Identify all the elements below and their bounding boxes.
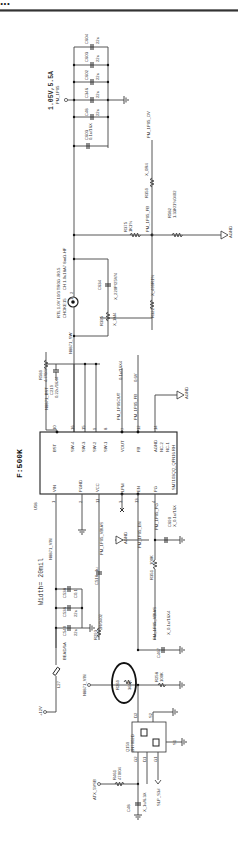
schematic-label: CHOKE15 (62, 298, 67, 318)
schematic-circle (73, 81, 75, 83)
schematic-label: 100K (149, 555, 154, 565)
schematic-label: X_499R1% (150, 275, 155, 296)
cap-value: 22u (95, 54, 100, 62)
schematic-label: G2 (133, 756, 138, 762)
schematic-label: SW-3 (81, 441, 86, 452)
schematic-label: LPM (120, 483, 125, 492)
schematic-label: BST (52, 443, 57, 452)
schematic-circle (56, 431, 59, 434)
sw-bus (74, 363, 100, 432)
schematic-label: D2 (133, 712, 138, 718)
schematic-label: X_1u/6.3X (142, 792, 147, 812)
schematic-label: 470/04 (117, 767, 122, 780)
schematic-label: N8871_BST (44, 387, 49, 410)
fb-net-label: PM_1P05_FB (145, 206, 150, 232)
schematic-label: S2 (148, 712, 153, 718)
schematic-label: 0.1u/16X4 (118, 360, 123, 380)
schematic-label: 0.6V (133, 373, 138, 382)
schematic-label: 12 (136, 425, 141, 430)
schematic-label: C0.1 (73, 588, 78, 598)
schematic-label: 1K1% (128, 221, 133, 232)
schematic-group: D2 S2 G2 D1 G1 S1 (133, 712, 177, 762)
schematic-label: X_220P/25V/4 (113, 272, 118, 300)
cap-ref: C346 (84, 87, 89, 98)
schematic-group (182, 738, 186, 746)
bead-icon (53, 667, 60, 675)
schematic-label: ATX_5VSB (92, 779, 97, 800)
schematic-label: SLP_S3# (156, 788, 161, 806)
schematic-group (180, 681, 184, 689)
schematic-label: FB (136, 446, 141, 452)
width-note: Width= 20mil (38, 558, 45, 605)
schematic-rect (132, 722, 166, 752)
port-icon (44, 711, 47, 714)
schematic-label: C48 (126, 804, 131, 812)
schematic-label: AGND (123, 532, 128, 544)
schematic-circle (121, 431, 124, 434)
schematic-label: NC-2 (159, 442, 164, 452)
schematic-circle (81, 607, 83, 609)
schematic-label: SW-2 (92, 441, 97, 452)
schematic-label: L27 (56, 680, 61, 688)
freq-label: F:500K (15, 449, 24, 478)
schematic-label: PM_1P05_EN (137, 521, 142, 548)
schematic-group (180, 646, 184, 654)
schematic-label: N8871_VIN (82, 674, 87, 696)
schematic-label: 16 (70, 425, 75, 430)
schematic-label: R269 (115, 679, 120, 690)
rail-net-name: PM_1P05 (55, 85, 60, 104)
schematic-group (134, 815, 142, 819)
schematic-label: 2 (69, 291, 74, 294)
schematic-label: SM7103QQ_QFN16 RH (171, 445, 176, 490)
schematic-label: X_0.1u/16X4 (166, 610, 171, 635)
schematic-label: 1u (94, 567, 99, 572)
schematic-label: VIN (52, 485, 57, 492)
schematic-label: G1 (153, 756, 158, 762)
schematic-label: C467 (156, 647, 161, 658)
input-filter: C538 C0.1 C536 22u C540 22u R293 2R/0402… (38, 586, 103, 716)
schematic-label: R322 (150, 307, 155, 318)
schematic-circle (137, 649, 139, 651)
cap-ref: C604 (84, 33, 89, 44)
schematic-circle (73, 335, 75, 337)
schematic-group (68, 586, 70, 631)
agnd-icon (221, 231, 228, 239)
schematic-label: R351 (149, 569, 154, 580)
port-icon (88, 684, 91, 687)
schematic-label: 2R/0402 (98, 613, 103, 630)
schematic-label: C518 (94, 574, 99, 585)
schematic-circle (73, 64, 75, 66)
schematic-label: 8 (103, 427, 108, 430)
schematic-label: R395 (99, 315, 104, 326)
schematic-circle (107, 64, 109, 66)
schematic-label: PM_1P05_PG (154, 503, 159, 530)
schematic-label: C634 (97, 279, 102, 290)
schematic-label: U58 (33, 502, 38, 510)
schematic-label: 100K (159, 672, 164, 682)
schematic-label: AGND (228, 226, 233, 238)
ground-icon (124, 96, 128, 104)
schematic-label: N8871_SW (68, 333, 73, 354)
schematic-label: PM_1P05_VBIAS (99, 522, 104, 555)
schematic-label: X_1M4 (112, 312, 117, 326)
schematic-label: PM_1P05_FB (133, 394, 138, 420)
schematic-label: SW-1 (103, 441, 108, 452)
inductor-section: RTL 1.0V 10/3 TR0G -R0.5 CHOKE15 CH 1.0u… (56, 247, 118, 354)
ov-net-label: PM_1P05_OV (146, 111, 151, 138)
schematic-circle (154, 539, 156, 541)
schematic-rect (141, 729, 147, 736)
schematic-label: RTL 1.0V 10/3 TR0G -R0.5 (56, 267, 61, 318)
agnd-icon (177, 391, 184, 399)
schematic-label: 22u (73, 609, 78, 617)
schematic-circle (73, 258, 75, 260)
rail-voltage-label: 1.05V,5.5A (48, 71, 55, 110)
cap-value: 22u (95, 72, 100, 80)
schematic-group (173, 708, 177, 716)
agnd-icon (116, 536, 123, 544)
schematic-label: NC-1 (165, 442, 170, 452)
ic-bottom-nets: N8871_VIN Width= 20mil PM_1P05_VBIAS C51… (38, 494, 184, 650)
schematic-label: 0.22u/16X4 (54, 376, 59, 398)
rail-port-icon (64, 98, 67, 101)
schematic-label: 15 (81, 425, 86, 430)
schematic-label: 7 (120, 427, 125, 430)
